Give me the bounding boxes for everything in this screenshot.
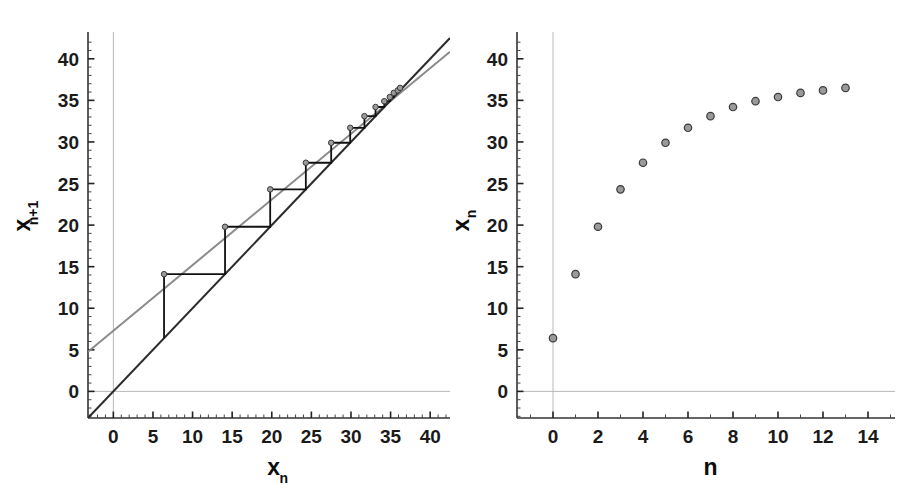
- y-tick-label: 0: [497, 381, 508, 402]
- x-tick-label: 14: [857, 426, 879, 447]
- y-tick-label: 0: [68, 381, 79, 402]
- x-tick-label: 10: [767, 426, 788, 447]
- cobweb-point-marker: [373, 104, 379, 110]
- y-tick-label: 25: [58, 174, 80, 195]
- x-tick-label: 12: [812, 426, 833, 447]
- data-point-marker: [662, 139, 669, 146]
- data-point-marker: [617, 186, 624, 193]
- x-tick-label: 10: [182, 426, 203, 447]
- x-tick-label: 30: [340, 426, 361, 447]
- y-tick-label: 15: [487, 257, 509, 278]
- x-tick-label: 35: [380, 426, 402, 447]
- x-tick-label: 8: [728, 426, 739, 447]
- data-point-marker: [729, 103, 736, 110]
- y-tick-label: 20: [487, 215, 508, 236]
- data-point-marker: [707, 112, 714, 119]
- cobweb-point-marker: [347, 125, 353, 131]
- cobweb-point-marker: [303, 160, 309, 166]
- x-tick-label: 6: [683, 426, 694, 447]
- y-tick-label: 30: [487, 132, 508, 153]
- y-tick-label: 20: [58, 215, 79, 236]
- data-point-marker: [594, 223, 601, 230]
- y-tick-label: 15: [58, 257, 80, 278]
- data-point-marker: [819, 87, 826, 94]
- y-axis-label-subscript: n+1: [25, 201, 41, 226]
- y-tick-label: 35: [487, 90, 509, 111]
- y-tick-label: 10: [58, 298, 79, 319]
- y-tick-label: 5: [497, 340, 508, 361]
- cobweb-point-marker: [161, 271, 167, 277]
- cobweb-point-marker: [397, 85, 403, 91]
- x-tick-label: 2: [593, 426, 604, 447]
- y-tick-label: 35: [58, 90, 80, 111]
- y-axis-label-subscript: n: [463, 210, 479, 219]
- data-point-marker: [572, 270, 579, 277]
- x-axis-label: n: [703, 454, 717, 480]
- cobweb-point-marker: [362, 113, 368, 119]
- x-tick-label: 25: [301, 426, 323, 447]
- cobweb-point-marker: [222, 224, 228, 230]
- cobweb-diagram-svg: 05101520253035400510152025303540xnxn+1: [0, 0, 455, 491]
- clipped-curves: [88, 38, 450, 418]
- data-point-marker: [549, 334, 556, 341]
- x-tick-label: 40: [420, 426, 441, 447]
- y-axis-label: x: [455, 218, 474, 231]
- x-tick-label: 0: [108, 426, 119, 447]
- data-point-marker: [797, 89, 804, 96]
- timeseries-plot-area: 024681012140510152025303540nxn: [455, 32, 895, 480]
- map-line: [88, 52, 450, 352]
- y-tick-label: 40: [58, 49, 79, 70]
- x-tick-label: 0: [548, 426, 559, 447]
- y-tick-label: 25: [487, 174, 509, 195]
- x-axis-label-subscript: n: [279, 470, 288, 486]
- y-axis-label-group: xn: [455, 210, 479, 232]
- x-tick-label: 5: [148, 426, 159, 447]
- data-point-marker: [774, 93, 781, 100]
- x-tick-label: 20: [261, 426, 282, 447]
- y-axis-label-group: xn+1: [9, 201, 41, 232]
- data-point-marker: [639, 159, 646, 166]
- cobweb-point-marker: [328, 140, 334, 146]
- figure-canvas: 05101520253035400510152025303540xnxn+1 0…: [0, 0, 911, 491]
- cobweb-diagram-panel: 05101520253035400510152025303540xnxn+1: [0, 0, 455, 491]
- cobweb-plot-area: 05101520253035400510152025303540xnxn+1: [9, 32, 450, 486]
- x-tick-label: 15: [222, 426, 244, 447]
- data-point-marker: [842, 84, 849, 91]
- x-tick-label: 4: [638, 426, 649, 447]
- data-point-marker: [684, 124, 691, 131]
- data-point-marker: [752, 97, 759, 104]
- y-tick-label: 5: [68, 340, 79, 361]
- y-tick-label: 10: [487, 298, 508, 319]
- time-series-panel: 024681012140510152025303540nxn: [455, 0, 911, 491]
- cobweb-point-marker: [382, 98, 388, 104]
- y-tick-label: 40: [487, 49, 508, 70]
- cobweb-point-marker: [267, 187, 273, 193]
- time-series-svg: 024681012140510152025303540nxn: [455, 0, 911, 491]
- y-tick-label: 30: [58, 132, 79, 153]
- x-axis-label: x: [267, 454, 280, 480]
